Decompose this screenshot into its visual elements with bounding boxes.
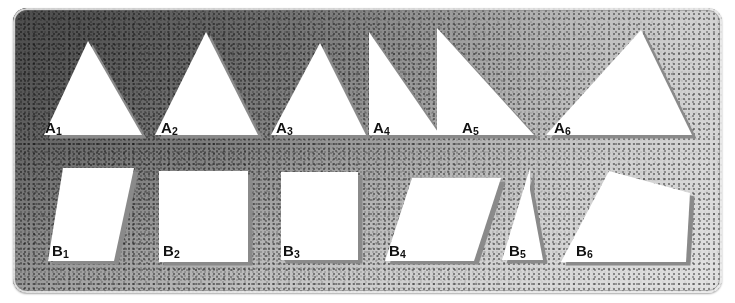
shape-label-letter: B: [283, 242, 294, 259]
shape-label-b1: B1: [52, 243, 68, 258]
shape-label-a4: A4: [373, 120, 389, 135]
shape-label-b5: B5: [509, 243, 525, 258]
shape-label-index: 6: [587, 248, 593, 260]
shape-label-index: 3: [287, 125, 293, 137]
shape-label-b4: B4: [389, 243, 405, 258]
shape-label-index: 4: [384, 125, 390, 137]
shape-label-index: 4: [400, 248, 406, 260]
shape-label-letter: A: [373, 119, 384, 136]
shape-label-a2: A2: [161, 120, 177, 135]
shape-label-b6: B6: [576, 243, 592, 258]
shape-label-index: 2: [172, 125, 178, 137]
shape-label-letter: B: [52, 242, 63, 259]
shape-label-b2: B2: [163, 243, 179, 258]
shape-label-letter: B: [509, 242, 520, 259]
shape-label-index: 6: [565, 125, 571, 137]
shape-label-letter: A: [462, 119, 473, 136]
shapes-layer: [0, 0, 735, 303]
shape-label-letter: A: [276, 119, 287, 136]
shape-label-index: 3: [294, 248, 300, 260]
shape-label-index: 2: [174, 248, 180, 260]
shape-label-b3: B3: [283, 243, 299, 258]
shape-label-a5: A5: [462, 120, 478, 135]
shape-label-index: 5: [520, 248, 526, 260]
shape-label-letter: B: [389, 242, 400, 259]
shape-label-a3: A3: [276, 120, 292, 135]
shape-label-index: 5: [473, 125, 479, 137]
figure-root: A1A2A3A4A5A6B1B2B3B4B5B6: [0, 0, 735, 303]
shape-label-letter: A: [45, 119, 56, 136]
shape-label-index: 1: [63, 248, 69, 260]
shape-cutout-group: [44, 28, 692, 262]
shape-label-letter: A: [161, 119, 172, 136]
shape-label-index: 1: [56, 125, 62, 137]
shape-label-letter: B: [576, 242, 587, 259]
shape-label-a6: A6: [554, 120, 570, 135]
shape-label-a1: A1: [45, 120, 61, 135]
shape-label-letter: A: [554, 119, 565, 136]
shape-label-letter: B: [163, 242, 174, 259]
